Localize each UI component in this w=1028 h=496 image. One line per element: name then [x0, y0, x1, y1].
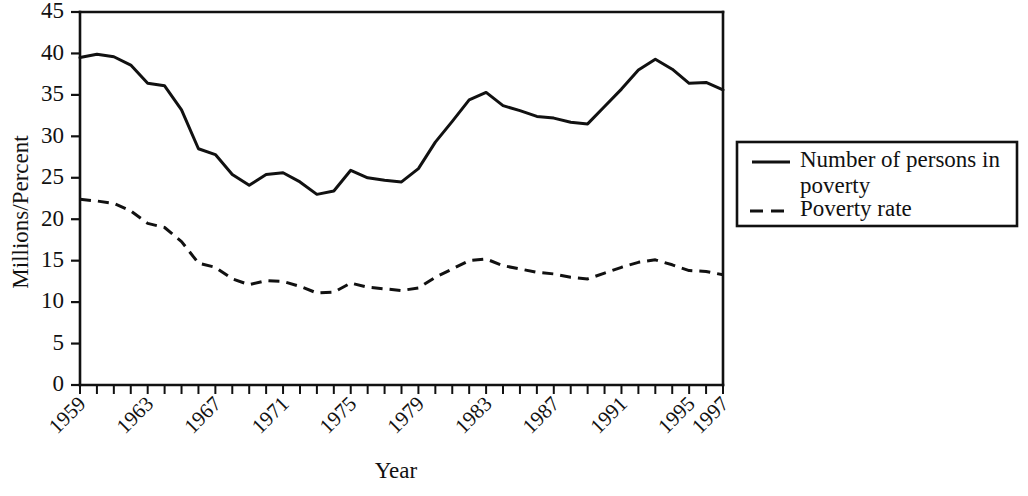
x-tick-label: 1971 [247, 392, 294, 439]
x-tick-label: 1997 [687, 392, 734, 439]
x-tick-label: 1979 [382, 392, 429, 439]
y-tick-label: 35 [41, 81, 64, 106]
y-tick-label: 15 [41, 247, 64, 272]
series-line-number-of-persons-in-poverty [80, 54, 723, 194]
legend-label-0-line1: Number of persons in [800, 147, 1000, 172]
x-tick-label: 1959 [44, 392, 91, 439]
y-tick-label: 20 [41, 206, 64, 231]
legend-label-0-line2: poverty [800, 173, 871, 198]
plot-axes [80, 12, 723, 385]
legend-label-1-line1: Poverty rate [800, 196, 912, 221]
chart-figure: 051015202530354045 195919631967197119751… [0, 0, 1028, 496]
y-tick-label: 5 [53, 330, 65, 355]
x-tick-label: 1991 [585, 392, 632, 439]
x-tick-label: 1967 [179, 392, 226, 439]
x-tick-label: 1963 [112, 392, 159, 439]
y-tick-label: 25 [41, 164, 64, 189]
y-tick-label: 40 [41, 40, 64, 65]
y-axis-title: Millions/Percent [8, 135, 33, 289]
x-tick-label: 1975 [315, 392, 362, 439]
x-tick-label-group: 1959196319671971197519791983198719911995… [44, 392, 734, 439]
x-tick-label: 1983 [450, 392, 497, 439]
y-tick-label: 0 [53, 371, 65, 396]
y-tick-label: 10 [41, 288, 64, 313]
x-tick-group [80, 385, 723, 394]
x-tick-label: 1987 [518, 392, 565, 439]
y-tick-group [71, 12, 80, 385]
y-tick-label-group: 051015202530354045 [41, 0, 64, 396]
x-axis-title: Year [375, 458, 418, 483]
series-line-poverty-rate [80, 199, 723, 293]
y-tick-label: 45 [41, 0, 64, 23]
chart-svg: 051015202530354045 195919631967197119751… [0, 0, 1028, 496]
chart-legend: Number of persons in poverty Poverty rat… [737, 142, 1017, 226]
y-tick-label: 30 [41, 123, 64, 148]
